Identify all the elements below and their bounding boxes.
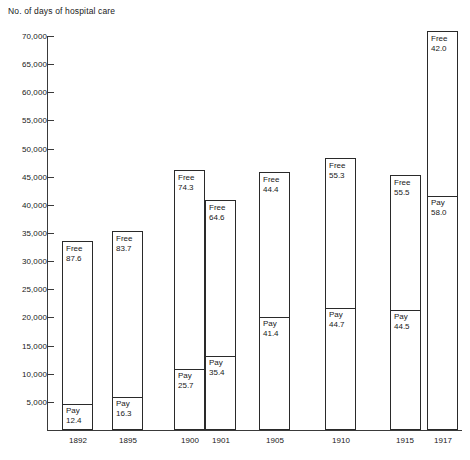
hospital-care-bar-chart: No. of days of hospital care 5,00010,000… [0, 0, 470, 460]
y-axis-tick [47, 205, 54, 206]
y-axis-tick-label: 60,000 [5, 88, 47, 97]
free-segment-name: Free [263, 175, 289, 185]
free-segment-value: 74.3 [178, 183, 204, 193]
y-axis-tick [47, 261, 54, 262]
bar-1900[interactable]: Free74.3Pay25.7 [174, 170, 205, 430]
y-axis-tick-label: 45,000 [5, 172, 47, 181]
pay-segment-name: Pay [178, 371, 204, 381]
free-segment-label: Free74.3 [175, 173, 204, 192]
free-segment-label: Free44.4 [260, 175, 289, 194]
pay-segment-label: Pay58.0 [428, 198, 457, 217]
y-axis-tick-label: 55,000 [5, 116, 47, 125]
free-segment-label: Free55.3 [326, 161, 355, 180]
pay-segment-name: Pay [263, 319, 289, 329]
bar-1917[interactable]: Free42.0Pay58.0 [427, 31, 458, 430]
y-axis-tick-label: 40,000 [5, 200, 47, 209]
x-axis-label-1915: 1915 [396, 436, 414, 445]
chart-title: No. of days of hospital care [8, 6, 115, 16]
pay-segment-value: 44.5 [394, 322, 420, 332]
free-segment-value: 55.3 [329, 171, 355, 181]
y-axis-tick-label: 10,000 [5, 369, 47, 378]
free-segment-label: Free64.6 [206, 203, 235, 222]
x-axis-label-1892: 1892 [69, 436, 87, 445]
y-axis-tick-label: 35,000 [5, 229, 47, 238]
free-segment-value: 87.6 [66, 254, 92, 264]
bar-1901[interactable]: Free64.6Pay35.4 [205, 200, 236, 430]
pay-segment-label: Pay12.4 [63, 406, 92, 425]
pay-segment-name: Pay [66, 406, 92, 416]
bar-segment-divider [175, 369, 204, 370]
free-segment-name: Free [178, 173, 204, 183]
bar-1895[interactable]: Free83.7Pay16.3 [112, 231, 143, 430]
free-segment-value: 55.5 [394, 188, 420, 198]
y-axis-tick [47, 317, 54, 318]
bar-1905[interactable]: Free44.4Pay41.4 [259, 172, 290, 430]
bar-segment-divider [63, 404, 92, 405]
y-axis-tick [47, 36, 54, 37]
bar-1915[interactable]: Free55.5Pay44.5 [390, 175, 421, 430]
free-segment-value: 44.4 [263, 185, 289, 195]
pay-segment-value: 58.0 [431, 208, 457, 218]
pay-segment-label: Pay25.7 [175, 371, 204, 390]
pay-segment-name: Pay [431, 198, 457, 208]
free-segment-name: Free [116, 234, 142, 244]
y-axis-tick-label: 20,000 [5, 313, 47, 322]
free-segment-label: Free42.0 [428, 34, 457, 53]
bar-segment-divider [326, 308, 355, 309]
bar-segment-divider [391, 310, 420, 311]
y-axis-tick [47, 289, 54, 290]
pay-segment-label: Pay44.5 [391, 312, 420, 331]
y-axis-tick-label: 15,000 [5, 341, 47, 350]
y-axis-tick [47, 149, 54, 150]
y-axis-tick [47, 233, 54, 234]
x-axis-label-1905: 1905 [266, 436, 284, 445]
bar-1892[interactable]: Free87.6Pay12.4 [62, 241, 93, 430]
y-axis-tick [47, 92, 54, 93]
y-axis-tick [47, 346, 54, 347]
x-axis-label-1895: 1895 [119, 436, 137, 445]
bar-segment-divider [113, 397, 142, 398]
pay-segment-value: 44.7 [329, 320, 355, 330]
pay-segment-value: 12.4 [66, 416, 92, 426]
y-axis-tick-label: 30,000 [5, 257, 47, 266]
y-axis-tick-label: 5,000 [5, 397, 47, 406]
free-segment-name: Free [329, 161, 355, 171]
y-axis-tick [47, 177, 54, 178]
x-axis-label-1901: 1901 [212, 436, 230, 445]
pay-segment-label: Pay35.4 [206, 358, 235, 377]
y-axis-tick [47, 402, 54, 403]
free-segment-name: Free [431, 34, 457, 44]
free-segment-value: 83.7 [116, 244, 142, 254]
free-segment-label: Free83.7 [113, 234, 142, 253]
pay-segment-value: 41.4 [263, 329, 289, 339]
free-segment-name: Free [394, 178, 420, 188]
free-segment-label: Free55.5 [391, 178, 420, 197]
pay-segment-label: Pay44.7 [326, 310, 355, 329]
free-segment-label: Free87.6 [63, 244, 92, 263]
free-segment-name: Free [209, 203, 235, 213]
bar-segment-divider [428, 196, 457, 197]
y-axis-tick-label: 65,000 [5, 60, 47, 69]
free-segment-value: 64.6 [209, 213, 235, 223]
y-axis-tick [47, 64, 54, 65]
y-axis-tick-label: 50,000 [5, 144, 47, 153]
pay-segment-value: 25.7 [178, 381, 204, 391]
bar-segment-divider [260, 317, 289, 318]
y-axis-tick-label: 25,000 [5, 285, 47, 294]
y-axis-tick [47, 374, 54, 375]
y-axis-tick [47, 120, 54, 121]
pay-segment-label: Pay16.3 [113, 399, 142, 418]
x-axis-label-1910: 1910 [332, 436, 350, 445]
pay-segment-name: Pay [329, 310, 355, 320]
pay-segment-name: Pay [209, 358, 235, 368]
pay-segment-value: 16.3 [116, 409, 142, 419]
bar-1910[interactable]: Free55.3Pay44.7 [325, 158, 356, 430]
pay-segment-value: 35.4 [209, 368, 235, 378]
x-axis-label-1900: 1900 [181, 436, 199, 445]
free-segment-value: 42.0 [431, 44, 457, 54]
x-axis-label-1917: 1917 [434, 436, 452, 445]
pay-segment-name: Pay [116, 399, 142, 409]
x-axis-line [47, 430, 462, 431]
pay-segment-label: Pay41.4 [260, 319, 289, 338]
bar-segment-divider [206, 356, 235, 357]
